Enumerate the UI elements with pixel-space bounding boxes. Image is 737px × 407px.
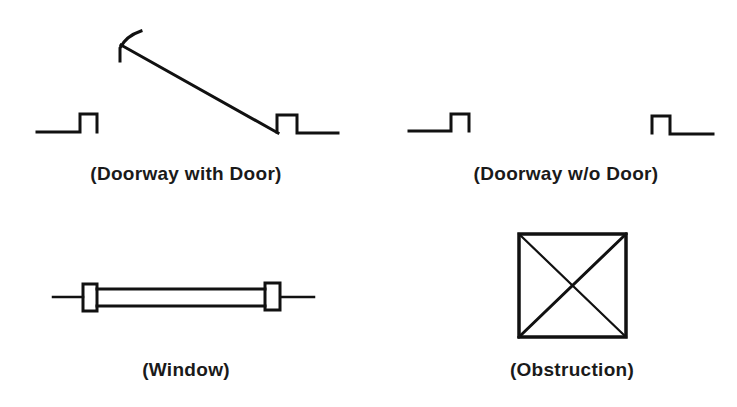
symbols-legend-canvas [0,0,737,407]
left-wall-stub [409,114,469,131]
left-wall-stub [37,114,97,132]
right-window-frame [265,283,280,310]
window-label: (Window) [142,359,230,381]
right-wall-stub [652,116,713,134]
doorway-without-door-icon [409,114,713,134]
doorway-with-door-label: (Doorway with Door) [90,163,281,185]
left-window-frame [83,284,97,311]
doorway-with-door-icon [37,31,338,133]
doorway-without-door-label: (Doorway w/o Door) [474,163,659,185]
obstruction-icon [519,234,626,337]
right-wall-stub [277,115,338,133]
obstruction-label: (Obstruction) [510,359,634,381]
window-icon [53,283,314,311]
door-leaf-line [121,45,278,133]
